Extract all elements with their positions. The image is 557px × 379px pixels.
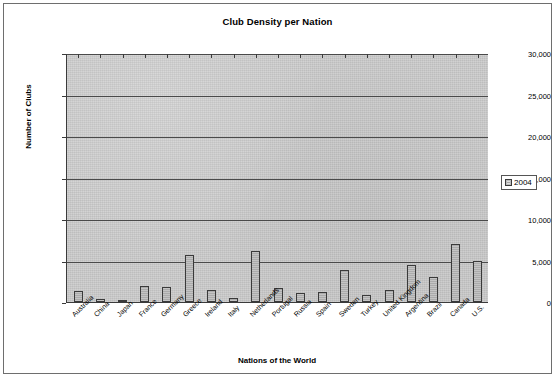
x-axis-tick-mark	[167, 54, 168, 58]
y-axis-tick-label: 20,000	[495, 133, 551, 142]
x-axis-tick-label: Netherlands	[248, 313, 253, 318]
legend-swatch-2004	[505, 179, 512, 186]
y-axis-tick-label: 10,000	[495, 216, 551, 225]
x-axis-tick-label: U.S.	[470, 313, 475, 318]
gridline	[67, 262, 488, 263]
gridline	[67, 137, 488, 138]
x-axis-tick-label: Japan	[115, 313, 120, 318]
gridline	[67, 96, 488, 97]
legend-label-2004: 2004	[514, 178, 532, 187]
x-axis-tick-mark	[78, 54, 79, 58]
x-axis-tick-mark	[211, 54, 212, 58]
bar	[385, 290, 394, 302]
y-axis-tick-label: 5,000	[495, 257, 551, 266]
x-axis-tick-label: Russia	[293, 313, 298, 318]
x-axis-tick-mark	[100, 54, 101, 58]
bar	[340, 270, 349, 302]
x-axis-tick-label: France	[137, 313, 142, 318]
x-axis-tick-mark	[256, 54, 257, 58]
x-axis-tick-mark	[234, 54, 235, 58]
y-axis-tick-mark	[62, 137, 66, 138]
x-axis-tick-mark	[411, 54, 412, 58]
y-axis-tick-mark	[62, 96, 66, 97]
bar	[251, 251, 260, 302]
x-axis-tick-mark	[456, 54, 457, 58]
bar	[451, 244, 460, 302]
x-axis-tick-label: United Kingdom	[382, 313, 387, 318]
x-axis-tick-mark	[123, 54, 124, 58]
gridline	[67, 220, 488, 221]
legend[interactable]: 2004	[501, 175, 537, 190]
x-axis-tick-label: Germany	[159, 313, 164, 318]
y-axis-tick-label: 25,000	[495, 91, 551, 100]
bar	[229, 298, 238, 302]
x-axis-tick-label: Australia	[71, 313, 76, 318]
x-axis-tick-mark	[278, 54, 279, 58]
y-axis-title: Number of Clubs	[24, 57, 33, 177]
y-axis-tick-mark	[62, 262, 66, 263]
x-axis-tick-label: Canada	[448, 313, 453, 318]
y-axis-tick-label: 0	[495, 299, 551, 308]
chart-frame: Club Density per Nation Number of Clubs …	[3, 3, 552, 374]
x-axis-tick-label: Greece	[182, 313, 187, 318]
bar	[473, 261, 482, 303]
x-axis-tick-mark	[345, 54, 346, 58]
y-axis-tick-mark	[62, 179, 66, 180]
y-axis-tick-mark	[62, 54, 66, 55]
x-axis-tick-mark	[322, 54, 323, 58]
bar	[429, 277, 438, 302]
bar	[74, 291, 83, 302]
x-axis-tick-mark	[478, 54, 479, 58]
chart-title: Club Density per Nation	[4, 16, 551, 27]
bar	[162, 287, 171, 302]
x-axis-tick-label: Spain	[315, 313, 320, 318]
gridline	[67, 179, 488, 180]
x-axis-tick-label: China	[93, 313, 98, 318]
plot-area	[66, 54, 488, 303]
y-axis-tick-mark	[62, 220, 66, 221]
x-axis-title: Nations of the World	[66, 356, 488, 365]
bar	[140, 286, 149, 302]
x-axis-tick-label: Sweden	[337, 313, 342, 318]
x-axis-tick-label: Portugal	[271, 313, 276, 318]
y-axis-tick-label: 30,000	[495, 50, 551, 59]
x-axis-tick-label: Ireland	[204, 313, 209, 318]
x-axis-tick-label: Italy	[226, 313, 231, 318]
x-axis-tick-mark	[433, 54, 434, 58]
x-axis-tick-mark	[145, 54, 146, 58]
x-axis-tick-label: Brazil	[426, 313, 431, 318]
y-axis-tick-mark	[62, 303, 66, 304]
x-axis-tick-label: Argentina	[404, 313, 409, 318]
x-axis-tick-mark	[367, 54, 368, 58]
x-axis-tick-mark	[389, 54, 390, 58]
x-axis-tick-label: Turkey	[359, 313, 364, 318]
x-axis-tick-mark	[300, 54, 301, 58]
x-axis-tick-mark	[189, 54, 190, 58]
bar	[185, 255, 194, 302]
